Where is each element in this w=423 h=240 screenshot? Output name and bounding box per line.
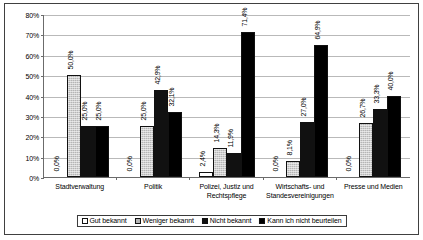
bar-slot: 71,4% bbox=[241, 15, 255, 177]
legend-swatch-icon bbox=[135, 218, 141, 224]
y-tick-label: 20% bbox=[26, 134, 39, 141]
legend-label: Gut bekannt bbox=[89, 217, 126, 224]
bar-slot: 8,1% bbox=[286, 15, 300, 177]
bar-value-label: 64,9% bbox=[314, 20, 321, 39]
bar-slot: 0,0% bbox=[53, 15, 67, 177]
legend-swatch-icon bbox=[202, 218, 208, 224]
bar-value-label: 25,0% bbox=[140, 102, 147, 121]
y-tick-label: 60% bbox=[26, 52, 39, 59]
bar-group: 0,0%50,0%25,0%25,0% bbox=[44, 15, 117, 177]
bar[interactable] bbox=[95, 126, 109, 177]
y-tick-label: 0% bbox=[29, 175, 39, 182]
category-label: Wirtschafts- und Standesvereinigungen bbox=[263, 182, 336, 201]
bar-group: 0,0%8,1%27,0%64,9% bbox=[264, 15, 337, 177]
category-label: Politik bbox=[116, 182, 189, 201]
chart-frame: 80%70%60%50%40%30%20%10%0% 0,0%50,0%25,0… bbox=[4, 3, 419, 235]
bar-value-label: 25,0% bbox=[81, 102, 88, 121]
y-tick-label: 30% bbox=[26, 113, 39, 120]
category-label: Stadtverwaltung bbox=[43, 182, 116, 201]
category-label: Polizei, Justiz und Rechtspflege bbox=[190, 182, 263, 201]
bar-slot: 0,0% bbox=[126, 15, 140, 177]
chart-legend: Gut bekanntWeniger bekanntNicht bekanntK… bbox=[76, 215, 346, 227]
bar-value-label: 26,7% bbox=[359, 98, 366, 117]
bar[interactable] bbox=[140, 126, 154, 177]
bar-slot: 50,0% bbox=[67, 15, 81, 177]
x-tick-mark bbox=[263, 177, 264, 180]
bar-value-label: 2,4% bbox=[199, 151, 206, 166]
bar-slot: 27,0% bbox=[300, 15, 314, 177]
bar-value-label: 25,0% bbox=[95, 102, 102, 121]
bar-value-label: 42,9% bbox=[154, 65, 161, 84]
bar[interactable] bbox=[213, 148, 227, 177]
bar-value-label: 8,1% bbox=[286, 140, 293, 155]
legend-item[interactable]: Nicht bekannt bbox=[202, 217, 252, 224]
bar-value-label: 27,0% bbox=[300, 98, 307, 117]
bar[interactable] bbox=[387, 96, 401, 178]
bar-slot: 25,0% bbox=[81, 15, 95, 177]
x-tick-mark bbox=[336, 177, 337, 180]
legend-item[interactable]: Kann ich nicht beurteilen bbox=[259, 217, 341, 224]
bar[interactable] bbox=[373, 109, 387, 177]
bar-slot: 26,7% bbox=[359, 15, 373, 177]
bar-slot: 64,9% bbox=[314, 15, 328, 177]
bar-value-label: 0,0% bbox=[272, 156, 279, 171]
bar[interactable] bbox=[168, 112, 182, 177]
bar-slot: 0,0% bbox=[345, 15, 359, 177]
bar-value-label: 11,9% bbox=[227, 129, 234, 147]
y-tick-label: 40% bbox=[26, 93, 39, 100]
bar-value-label: 71,4% bbox=[241, 7, 248, 26]
legend-item[interactable]: Weniger bekannt bbox=[135, 217, 194, 224]
legend-label: Weniger bekannt bbox=[143, 217, 194, 224]
category-label: Presse und Medien bbox=[337, 182, 410, 201]
bar-value-label: 0,0% bbox=[126, 156, 133, 171]
bar-value-label: 14,3% bbox=[213, 124, 220, 143]
bar-slot: 11,9% bbox=[227, 15, 241, 177]
x-tick-mark bbox=[116, 177, 117, 180]
bar-slot: 14,3% bbox=[213, 15, 227, 177]
bar-value-label: 40,0% bbox=[387, 71, 394, 90]
bar-value-label: 32,1% bbox=[168, 87, 175, 106]
bar-slot: 40,0% bbox=[387, 15, 401, 177]
bar[interactable] bbox=[300, 122, 314, 177]
legend-label: Kann ich nicht beurteilen bbox=[267, 217, 341, 224]
bar[interactable] bbox=[241, 32, 255, 177]
bar-group: 2,4%14,3%11,9%71,4% bbox=[190, 15, 263, 177]
x-axis-category-labels: StadtverwaltungPolitikPolizei, Justiz un… bbox=[43, 182, 410, 201]
bar-slot: 25,0% bbox=[140, 15, 154, 177]
bar-slot: 42,9% bbox=[154, 15, 168, 177]
x-tick-mark bbox=[189, 177, 190, 180]
bar-slot: 25,0% bbox=[95, 15, 109, 177]
bar-groups: 0,0%50,0%25,0%25,0%0,0%25,0%42,9%32,1%2,… bbox=[44, 15, 410, 177]
bar-group: 0,0%26,7%33,3%40,0% bbox=[337, 15, 410, 177]
bar[interactable] bbox=[286, 161, 300, 178]
y-tick-label: 70% bbox=[26, 32, 39, 39]
y-axis: 80%70%60%50%40%30%20%10%0% bbox=[5, 4, 43, 190]
y-tick-label: 50% bbox=[26, 73, 39, 80]
bar-slot: 0,0% bbox=[272, 15, 286, 177]
legend-item[interactable]: Gut bekannt bbox=[81, 217, 126, 224]
plot-area: 0,0%50,0%25,0%25,0%0,0%25,0%42,9%32,1%2,… bbox=[43, 15, 410, 178]
bar-value-label: 33,3% bbox=[373, 85, 380, 104]
bar-slot: 32,1% bbox=[168, 15, 182, 177]
bar[interactable] bbox=[227, 153, 241, 177]
legend-swatch-icon bbox=[259, 218, 265, 224]
legend-swatch-icon bbox=[81, 218, 87, 224]
legend-label: Nicht bekannt bbox=[210, 217, 252, 224]
bar-value-label: 50,0% bbox=[67, 51, 74, 70]
plot-wrapper: 80%70%60%50%40%30%20%10%0% 0,0%50,0%25,0… bbox=[5, 4, 418, 190]
bar-group: 0,0%25,0%42,9%32,1% bbox=[117, 15, 190, 177]
y-tick-label: 10% bbox=[26, 154, 39, 161]
bar[interactable] bbox=[199, 172, 213, 177]
bar[interactable] bbox=[154, 90, 168, 177]
bar-value-label: 0,0% bbox=[53, 156, 60, 171]
y-tick-label: 80% bbox=[26, 12, 39, 19]
bar-slot: 2,4% bbox=[199, 15, 213, 177]
y-tick-mark bbox=[41, 178, 44, 179]
bar[interactable] bbox=[81, 126, 95, 177]
bar[interactable] bbox=[314, 45, 328, 177]
bar-slot: 33,3% bbox=[373, 15, 387, 177]
bar-value-label: 0,0% bbox=[345, 156, 352, 171]
bar[interactable] bbox=[67, 75, 81, 177]
bar[interactable] bbox=[359, 123, 373, 177]
